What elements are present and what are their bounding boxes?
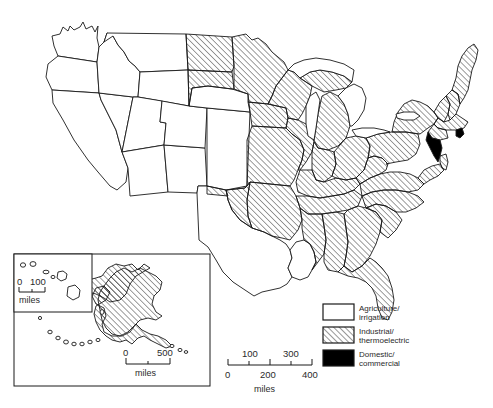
island-lanai — [51, 275, 55, 278]
main-scale-unit: miles — [254, 384, 276, 394]
legend-label-agriculture-line2: irrigation — [359, 313, 390, 322]
us-water-use-map: 0 100 miles 0 500 miles 100 300 0 200 40… — [0, 0, 493, 408]
lake-ontario — [396, 112, 420, 120]
legend-label-domestic-line2: commercial — [359, 359, 400, 368]
aleutian-island — [96, 338, 100, 341]
region-northdakota — [186, 34, 234, 72]
main-scale-tick-200: 200 — [260, 369, 276, 380]
aleutian-island — [100, 310, 104, 315]
alaska-scale-unit: miles — [135, 368, 157, 378]
hawaii-scale-tick-0: 0 — [17, 276, 22, 287]
island-maui — [57, 271, 67, 281]
aleutian-island — [38, 316, 41, 319]
region-alabama — [322, 212, 348, 272]
island-kauai — [20, 263, 25, 267]
island-molokai — [43, 270, 49, 274]
aleutian-island — [72, 342, 76, 346]
legend-label-agriculture-line1: Agriculture/ — [359, 304, 400, 313]
aleutian-island — [80, 342, 84, 346]
main-scale-tick-100: 100 — [242, 348, 258, 359]
main-scale-tick-400: 400 — [302, 369, 318, 380]
aleutian-island — [56, 336, 60, 340]
island-oahu — [30, 262, 36, 267]
legend-label-industrial-line1: Industrial/ — [359, 327, 394, 336]
aleutian-island — [88, 340, 92, 344]
legend-label-domestic-line1: Domestic/ — [359, 350, 395, 359]
region-kansas — [207, 108, 250, 190]
aleutian-island — [64, 340, 69, 344]
aleutian-island — [178, 348, 182, 351]
alaska-scale-tick-0: 0 — [123, 347, 128, 358]
hawaii-scale-unit: miles — [19, 295, 41, 305]
legend-swatch-agriculture — [323, 304, 354, 320]
aleutian-island — [184, 351, 188, 354]
main-scale-tick-0: 0 — [225, 369, 230, 380]
legend-swatch-domestic — [323, 350, 354, 366]
legend-label-industrial-line2: thermoelectric — [359, 336, 409, 345]
legend-swatch-industrial — [323, 327, 354, 343]
aleutian-island — [48, 330, 52, 334]
hawaii-scale-tick-100: 100 — [30, 276, 46, 287]
main-scale-tick-300: 300 — [283, 348, 299, 359]
region-oregon — [46, 56, 99, 93]
region-colorado — [160, 101, 207, 148]
alaska-scale-tick-500: 500 — [157, 347, 173, 358]
